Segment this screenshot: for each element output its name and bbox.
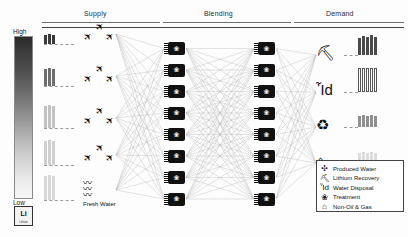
blending-node-b-6[interactable]: ❀ [258, 150, 275, 163]
produced-water-plane-icon: ✈ [82, 30, 95, 43]
supply-bar-group-s3 [44, 102, 55, 128]
header-rule-demand [294, 22, 404, 23]
produced-water-plane-icon: ✈ [94, 104, 107, 117]
produced-water-plane-icon: ✈ [104, 30, 117, 43]
stage-header-blending: Blending [204, 10, 233, 17]
colorbar-high-label: High [13, 28, 26, 35]
demand-bar [374, 116, 377, 127]
header-rule-blending [163, 22, 291, 23]
blending-node-a-7[interactable]: ❀ [168, 171, 185, 184]
figure-canvas: Supply Blending Demand High Low Li Lithi… [0, 0, 408, 237]
demand-bar [370, 35, 373, 55]
produced-water-plane-icon: ✈ [94, 62, 107, 75]
demand-bar [358, 116, 361, 127]
supply-bar [52, 141, 55, 165]
supply-baseline-s1 [44, 44, 74, 45]
blending-node-b-7[interactable]: ❀ [258, 171, 275, 184]
supply-bar-group-s4 [44, 139, 55, 165]
demand-bar [366, 37, 369, 55]
demand-bar [370, 68, 373, 92]
produced-water-plane-icon: ✈ [94, 141, 107, 154]
legend-label: Lithium Recovery [333, 175, 379, 181]
supply-bar [48, 175, 51, 200]
supply-bar [48, 68, 51, 86]
demand-bar-group-d1 [358, 29, 377, 55]
demand-bar [366, 68, 369, 92]
supply-bar [52, 106, 55, 128]
colorbar-low-label: Low [13, 199, 25, 206]
produced-water-icon: ✣ [320, 164, 329, 173]
treatment-icon: ❀ [320, 193, 329, 202]
demand-bar-group-d3 [358, 101, 377, 127]
demand-bar [362, 115, 365, 127]
blending-node-b-4[interactable]: ❀ [258, 107, 275, 120]
supply-bar [52, 176, 55, 200]
produced-water-plane-icon: ✈ [104, 151, 117, 164]
supply-bar-group-s5 [44, 174, 55, 200]
stage-header-demand: Demand [326, 10, 354, 17]
blending-node-a-4[interactable]: ❀ [168, 107, 185, 120]
non-oil-gas-icon: ⌂ [320, 202, 329, 211]
blending-node-b-3[interactable]: ❀ [258, 85, 275, 98]
supply-bar-group-s1 [44, 18, 55, 44]
legend-label: Non-Oil & Gas [333, 204, 372, 210]
produced-water-plane-icon: ✈ [82, 114, 95, 127]
demand-icon-lithium-recovery-mining: ⛏ [316, 45, 335, 60]
demand-bar [370, 115, 373, 127]
fresh-water-label: Fresh Water [83, 201, 116, 207]
supply-bar [44, 176, 47, 200]
blending-node-b-5[interactable]: ❀ [258, 128, 275, 141]
demand-bar [358, 38, 361, 55]
produced-water-plane-icon: ✈ [82, 151, 95, 164]
produced-water-plane-icon: ✈ [104, 114, 117, 127]
supply-bar [48, 105, 51, 128]
blending-node-b-1[interactable]: ❀ [258, 42, 275, 55]
demand-icon-treatment-recycle: ♻ [316, 117, 329, 132]
icon-legend: ✣Produced Water⛏Lithium RecoveryἾdWater … [316, 160, 404, 212]
blending-node-a-8[interactable]: ❀ [168, 193, 185, 206]
lithium-chip-icon: Li Lithium [14, 206, 33, 226]
supply-baseline-s5 [44, 200, 74, 201]
produced-water-plane-icon: ✈ [104, 72, 117, 85]
supply-bar-group-s2 [44, 60, 55, 86]
demand-baseline-d2 [344, 92, 358, 93]
legend-label: Water Disposal [333, 185, 373, 191]
blending-node-a-5[interactable]: ❀ [168, 128, 185, 141]
legend-row-0: ✣Produced Water [320, 164, 376, 173]
legend-row-1: ⛏Lithium Recovery [320, 174, 379, 183]
supply-bar [52, 35, 55, 44]
legend-row-4: ⌂Non-Oil & Gas [320, 202, 372, 211]
supply-bar [48, 140, 51, 165]
supply-bar [44, 35, 47, 44]
stage-header-supply: Supply [84, 10, 107, 17]
legend-label: Produced Water [333, 166, 376, 172]
blending-node-b-2[interactable]: ❀ [258, 64, 275, 77]
blending-node-a-6[interactable]: ❀ [168, 150, 185, 163]
supply-baseline-s3 [44, 128, 74, 129]
blending-node-a-2[interactable]: ❀ [168, 64, 185, 77]
blending-node-a-3[interactable]: ❀ [168, 85, 185, 98]
supply-bar [44, 106, 47, 128]
demand-bar [374, 37, 377, 55]
demand-bar [374, 68, 377, 92]
legend-row-2: ἾdWater Disposal [320, 183, 373, 192]
demand-icon-water-disposal-wells: Ἶd [316, 82, 333, 97]
demand-bar [362, 36, 365, 55]
supply-bar [48, 34, 51, 44]
blending-node-a-1[interactable]: ❀ [168, 42, 185, 55]
legend-label: Treatment [333, 194, 360, 200]
supply-bar [44, 141, 47, 165]
demand-bar [362, 68, 365, 92]
produced-water-plane-icon: ✈ [82, 72, 95, 85]
demand-bar-group-d2 [358, 66, 377, 92]
blending-node-b-8[interactable]: ❀ [258, 193, 275, 206]
lithium-name: Lithium [15, 221, 32, 224]
demand-baseline-d1 [344, 55, 358, 56]
volume-colorbar [14, 36, 33, 199]
supply-bar [52, 69, 55, 86]
demand-bar [358, 68, 361, 92]
supply-baseline-s4 [44, 165, 74, 166]
fresh-water-wave-icon: 〰〰〰 [83, 180, 91, 198]
lithium-symbol: Li [15, 210, 32, 217]
demand-bar [366, 116, 369, 127]
